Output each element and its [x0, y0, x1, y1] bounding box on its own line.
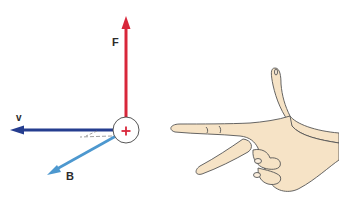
- field-vector-arrow: [47, 136, 116, 175]
- right-hand-illustration: [171, 68, 339, 191]
- vector-diagram: [0, 0, 339, 203]
- force-vector-arrow: [122, 16, 131, 120]
- field-label: B: [66, 170, 74, 182]
- force-label: F: [112, 36, 119, 48]
- positive-charge: [113, 117, 139, 143]
- hand-middle-finger: [196, 139, 251, 174]
- dashed-projection-line: [80, 131, 112, 137]
- right-hand-rule-diagram: F v B: [0, 0, 339, 203]
- velocity-label: v: [16, 112, 22, 123]
- velocity-vector-arrow: [10, 126, 115, 135]
